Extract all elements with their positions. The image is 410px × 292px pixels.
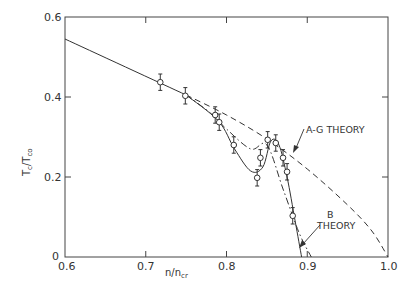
data-point-circle-icon <box>183 93 189 99</box>
b-theory-label-line2: THEORY <box>316 220 355 231</box>
y-tick-0.6: 0.6 <box>44 11 62 24</box>
curve-common-solid-line <box>65 39 186 95</box>
x-tick-1.0: 1.0 <box>380 260 398 273</box>
chart: 0.6 0.4 0.2 0 0.6 0.7 0.8 0.9 1.0 n/ncr … <box>0 0 410 292</box>
x-axis-label: n/ncr <box>165 267 188 280</box>
data-point-circle-icon <box>265 137 271 143</box>
data-point-circle-icon <box>212 112 218 118</box>
data-point-circle-icon <box>258 155 264 161</box>
data-points <box>157 74 295 224</box>
x-tick-0.9: 0.9 <box>299 260 317 273</box>
curve-b-theory <box>186 95 311 257</box>
chart-svg: 0.6 0.4 0.2 0 0.6 0.7 0.8 0.9 1.0 n/ncr … <box>0 0 410 292</box>
y-axis-label: Tc/Tco <box>21 148 34 177</box>
curve-solid-fit-through-data <box>186 95 301 257</box>
data-point-circle-icon <box>273 140 279 146</box>
axis-labels: 0.6 0.4 0.2 0 0.6 0.7 0.8 0.9 1.0 n/ncr … <box>21 11 398 280</box>
x-tick-0.7: 0.7 <box>137 260 155 273</box>
ag-arrow-line <box>296 129 304 148</box>
data-point-circle-icon <box>284 169 290 175</box>
ag-arrowhead-icon <box>293 145 299 153</box>
data-point-circle-icon <box>254 175 260 181</box>
data-point-circle-icon <box>157 79 163 85</box>
data-point-circle-icon <box>280 155 286 161</box>
ag-theory-label: A-G THEORY <box>306 124 365 135</box>
y-tick-0.2: 0.2 <box>44 171 62 184</box>
b-arrow-line <box>303 225 320 244</box>
x-tick-0.6: 0.6 <box>58 260 76 273</box>
y-tick-0.4: 0.4 <box>44 91 62 104</box>
b-theory-label-line1: B <box>327 209 334 220</box>
x-tick-0.8: 0.8 <box>218 260 236 273</box>
data-point-circle-icon <box>290 213 296 219</box>
data-point-circle-icon <box>216 119 222 125</box>
data-point-circle-icon <box>231 142 237 148</box>
